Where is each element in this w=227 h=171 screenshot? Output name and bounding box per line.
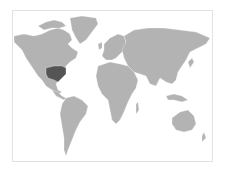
region-new-zealand — [202, 132, 206, 142]
region-europe[interactable] — [102, 34, 126, 60]
region-greenland[interactable] — [70, 16, 98, 44]
region-north-america[interactable] — [14, 28, 78, 94]
region-madagascar — [136, 102, 139, 114]
region-arctic-islands — [38, 20, 66, 30]
region-africa[interactable] — [96, 62, 138, 124]
world-map[interactable] — [0, 0, 227, 171]
region-australia[interactable] — [172, 110, 196, 132]
region-indonesia — [166, 94, 188, 102]
region-south-america[interactable] — [60, 96, 88, 156]
region-uk — [98, 42, 102, 50]
region-japan — [188, 58, 194, 68]
